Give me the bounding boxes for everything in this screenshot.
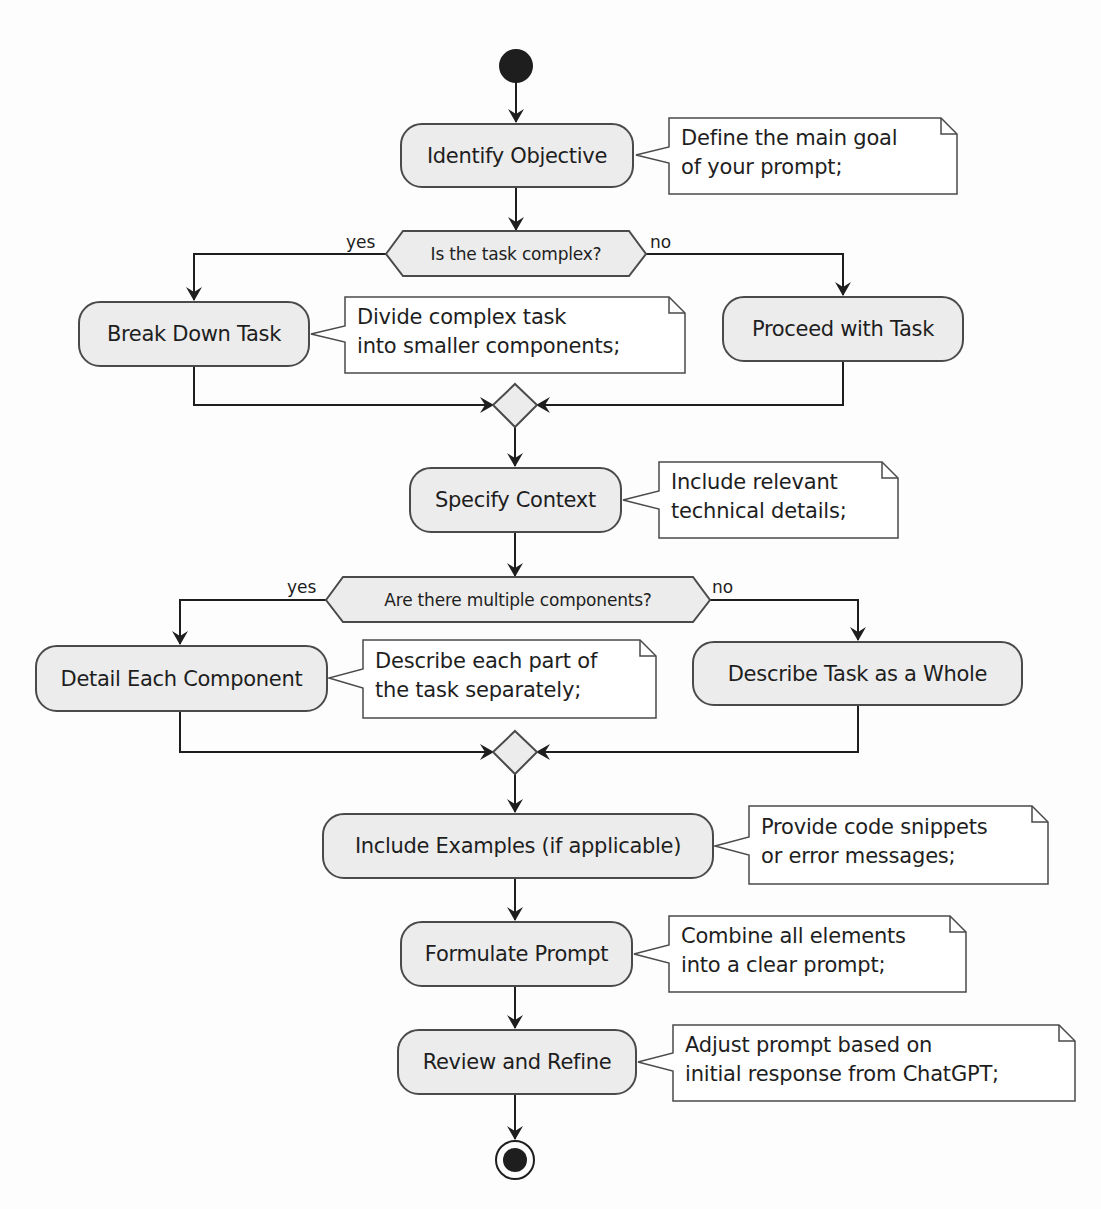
note-line: Describe each part of [375,647,656,676]
activity-describe-task-whole: Describe Task as a Whole [692,641,1023,706]
note-line: or error messages; [761,842,1048,871]
note-review-and-refine: Adjust prompt based on initial response … [673,1025,1075,1101]
activity-proceed-with-task: Proceed with Task [722,296,964,362]
note-line: Divide complex task [357,303,685,332]
merge-diamond-1 [493,384,537,427]
note-line: of your prompt; [681,153,957,182]
note-line: into a clear prompt; [681,951,966,980]
decision-complex-no-label: no [650,232,671,252]
activity-identify-objective: Identify Objective [400,123,634,188]
activity-formulate-prompt: Formulate Prompt [400,921,633,987]
decision-complex-yes-label: yes [346,232,375,252]
activity-specify-context: Specify Context [409,467,622,533]
note-line: initial response from ChatGPT; [685,1060,1075,1089]
note-include-examples: Provide code snippets or error messages; [749,807,1048,884]
note-line: technical details; [671,497,898,526]
note-line: Include relevant [671,468,898,497]
merge-diamond-2 [493,731,537,774]
decision-is-task-complex: Is the task complex? [386,231,646,276]
note-line: Provide code snippets [761,813,1048,842]
note-line: into smaller components; [357,332,685,361]
note-line: Define the main goal [681,124,957,153]
note-detail-each-component: Describe each part of the task separatel… [363,641,656,718]
activity-detail-each-component: Detail Each Component [35,645,328,712]
note-specify-context: Include relevant technical details; [659,462,898,538]
activity-include-examples: Include Examples (if applicable) [322,813,714,879]
decision-multiple-no-label: no [712,577,733,597]
activity-diagram: Identify Objective Break Down Task Proce… [0,0,1101,1209]
note-break-down-task: Divide complex task into smaller compone… [345,297,685,373]
note-formulate-prompt: Combine all elements into a clear prompt… [669,916,966,992]
note-line: Combine all elements [681,922,966,951]
start-node [499,49,533,83]
note-identify-objective: Define the main goal of your prompt; [669,118,957,194]
activity-break-down-task: Break Down Task [78,301,310,367]
note-line: Adjust prompt based on [685,1031,1075,1060]
decision-multiple-yes-label: yes [287,577,316,597]
activity-review-and-refine: Review and Refine [397,1029,637,1095]
decision-multiple-components: Are there multiple components? [326,577,710,622]
note-line: the task separately; [375,676,656,705]
